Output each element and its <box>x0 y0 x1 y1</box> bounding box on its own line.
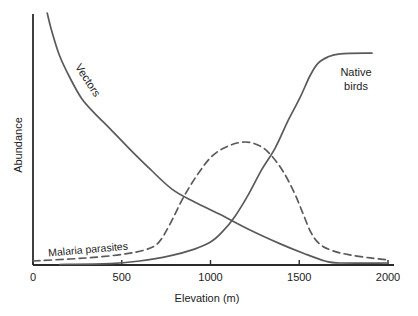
x-tick-label: 2000 <box>376 271 400 283</box>
curve-vectors <box>47 13 388 263</box>
curve-native-birds <box>60 53 372 264</box>
curve-label-native-birds: Native birds <box>340 65 371 93</box>
chart-canvas <box>0 0 418 316</box>
curve-label-native-line2: birds <box>340 79 371 93</box>
y-axis-label: Abundance <box>12 117 24 173</box>
x-tick-label: 500 <box>113 271 131 283</box>
x-tick-label: 1500 <box>287 271 311 283</box>
elevation-abundance-figure: Abundance Elevation (m) Vectors Native b… <box>0 0 418 316</box>
x-tick-label: 1000 <box>198 271 222 283</box>
x-tick-label: 0 <box>30 271 36 283</box>
x-axis-label: Elevation (m) <box>175 292 240 304</box>
curve-label-native-line1: Native <box>340 65 371 79</box>
